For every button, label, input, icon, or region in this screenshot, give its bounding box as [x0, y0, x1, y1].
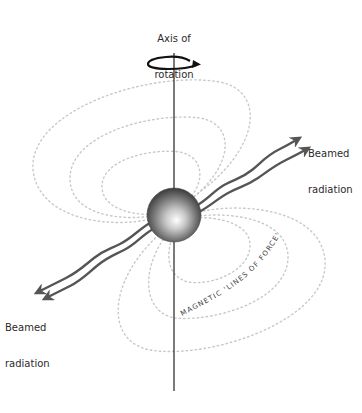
- field-lines-label: MAGNETIC 'LINES OF FORCE': [179, 231, 282, 318]
- beam-top-label-line-2: radiation: [308, 184, 353, 196]
- field-loop-lower-outer: [118, 208, 325, 351]
- beam-bottom-label-line-1: Beamed: [5, 322, 50, 334]
- beam-top-label-line-1: Beamed: [308, 148, 353, 160]
- axis-of-rotation-label: Axis of rotation: [148, 9, 200, 105]
- beamed-radiation-label-top: Beamed radiation: [308, 124, 353, 220]
- pulsar-diagram: MAGNETIC 'LINES OF FORCE' Axis of rotati…: [0, 0, 362, 413]
- beamed-radiation-label-bottom: Beamed radiation: [5, 298, 50, 394]
- beam-upper-right: [196, 139, 307, 212]
- beam-bottom-label-line-2: radiation: [5, 358, 50, 370]
- axis-label-line-1: Axis of: [148, 33, 200, 45]
- axis-label-line-2: rotation: [148, 69, 200, 81]
- neutron-star: [147, 188, 201, 242]
- beam-lower-left: [38, 223, 153, 298]
